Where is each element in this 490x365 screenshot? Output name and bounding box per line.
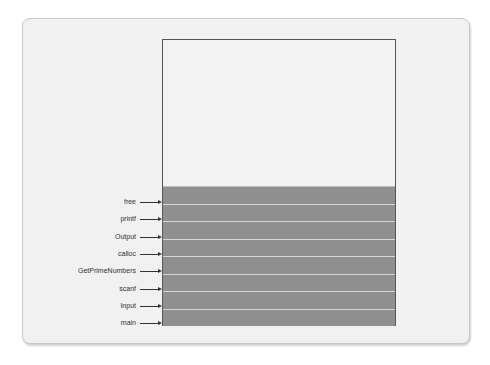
arrow-right-icon (140, 306, 160, 307)
label-row: GetPrimeNumbers (40, 266, 162, 276)
arrow-right-icon (140, 202, 160, 203)
arrow-right-icon (140, 237, 160, 238)
label-row: Output (40, 232, 162, 242)
arrow-right-icon (140, 254, 160, 255)
frame-label: scanf (119, 284, 136, 294)
label-row: printf (40, 214, 162, 224)
label-row: scanf (40, 284, 162, 294)
frame-label: GetPrimeNumbers (78, 266, 136, 276)
frame-label: Output (115, 232, 136, 242)
frame-label: main (121, 318, 136, 328)
label-row: free (40, 197, 162, 207)
arrow-right-icon (140, 323, 160, 324)
label-row: calloc (40, 249, 162, 259)
arrow-right-icon (140, 289, 160, 290)
frame-label: calloc (118, 249, 136, 259)
arrow-right-icon (140, 219, 160, 220)
frame-label: Input (120, 301, 136, 311)
label-row: Input (40, 301, 162, 311)
frame-label: printf (120, 214, 136, 224)
frame-label: free (124, 197, 136, 207)
frame-labels: free printf Output calloc GetPrimeNumber… (0, 0, 490, 365)
label-row: main (40, 318, 162, 328)
arrow-right-icon (140, 271, 160, 272)
